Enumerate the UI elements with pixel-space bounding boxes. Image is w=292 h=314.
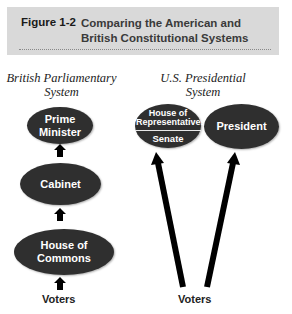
node-cabinet: Cabinet [20, 163, 101, 205]
arrow-up-icon [54, 277, 66, 290]
node-label: Prime Minister [35, 113, 85, 139]
node-label: Cabinet [40, 178, 80, 191]
congress-divider [135, 130, 201, 131]
node-prime-minister: Prime Minister [27, 107, 93, 144]
node-label: House of Commons [33, 239, 95, 265]
node-label: President [216, 120, 266, 133]
node-house-of-commons: House of Commons [14, 229, 114, 275]
us-voters: Voters [178, 293, 211, 305]
node-senate: Senate [135, 133, 201, 144]
arrow-up-icon [54, 208, 66, 221]
arrow-up-icon [54, 144, 66, 157]
node-house-of-representatives: House of Representatives [135, 108, 201, 128]
node-label: House of Representatives [136, 109, 200, 128]
node-congress: House of Representatives Senate [135, 104, 201, 148]
node-president: President [204, 104, 279, 149]
british-voters: Voters [42, 293, 75, 305]
